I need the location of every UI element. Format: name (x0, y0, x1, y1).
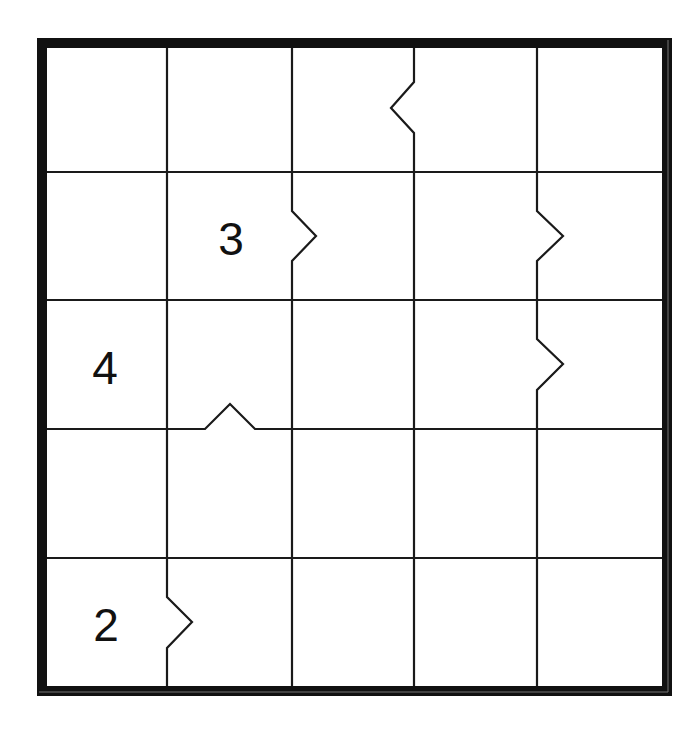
grid-line-vertical (167, 43, 192, 691)
grid-line-vertical (391, 43, 414, 691)
grid-line-vertical (537, 43, 563, 691)
grid-line-vertical (292, 43, 316, 691)
outer-frame (42, 43, 667, 691)
frame-highlight (39, 40, 668, 692)
clue-number-r2c0: 4 (92, 345, 118, 391)
clue-number-r1c1: 3 (218, 216, 244, 262)
grid-line-horizontal (42, 404, 667, 429)
puzzle-board: 3 4 2 (0, 0, 697, 729)
clue-number-r4c0: 2 (93, 602, 119, 648)
